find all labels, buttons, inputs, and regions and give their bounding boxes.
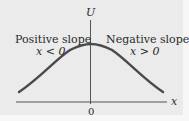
right-region-title: Negative slope	[106, 34, 189, 45]
right-region-condition: x > 0	[130, 46, 159, 57]
left-region-condition: x < 0	[36, 46, 65, 57]
x-axis-label: x	[171, 96, 177, 107]
potential-energy-diagram: U x 0 Positive slope x < 0 Negative slop…	[0, 0, 183, 115]
origin-tick-label: 0	[88, 107, 94, 117]
y-axis-label: U	[86, 7, 95, 18]
left-region-title: Positive slope	[15, 34, 91, 45]
